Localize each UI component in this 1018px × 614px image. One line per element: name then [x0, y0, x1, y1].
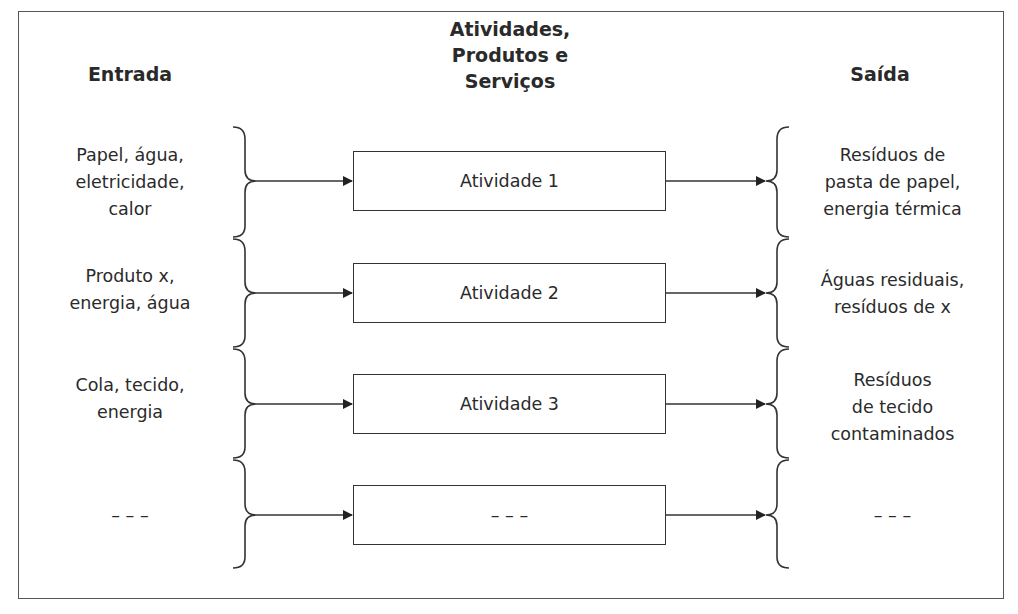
output-text: Águas residuais, resíduos de x: [785, 246, 1000, 342]
activity-label: Atividade 2: [460, 283, 559, 303]
output-text: Resíduos de tecido contaminados: [785, 355, 1000, 459]
output-line: Resíduos de: [840, 142, 946, 169]
output-line: Águas residuais,: [821, 267, 965, 294]
output-line: de tecido: [852, 394, 933, 421]
arrow-icon: [256, 181, 352, 515]
left-brace-icon: [233, 127, 256, 568]
header-output: Saída: [800, 61, 960, 87]
input-line: – – –: [111, 502, 148, 529]
activity-label: – – –: [491, 505, 528, 525]
output-line: resíduos de x: [834, 294, 951, 321]
output-line: – – –: [874, 502, 911, 529]
output-line: contaminados: [831, 421, 955, 448]
output-text: – – –: [785, 495, 1000, 535]
output-line: pasta de papel,: [825, 169, 961, 196]
output-line: energia térmica: [823, 196, 962, 223]
input-line: energia, água: [70, 290, 191, 317]
activity-label: Atividade 3: [460, 394, 559, 414]
input-text: Papel, água, eletricidade, calor: [30, 130, 230, 234]
input-line: eletricidade,: [75, 169, 184, 196]
input-text: Cola, tecido, energia: [30, 351, 230, 447]
input-line: Cola, tecido,: [75, 372, 184, 399]
activity-box: Atividade 2: [353, 263, 666, 323]
input-line: Papel, água,: [76, 142, 184, 169]
header-activities-line: Serviços: [400, 68, 620, 94]
input-line: calor: [108, 196, 151, 223]
header-activities-line: Produtos e: [400, 42, 620, 68]
activity-box: – – –: [353, 485, 666, 545]
activity-box: Atividade 1: [353, 151, 666, 211]
input-line: energia: [97, 399, 163, 426]
arrow-icon: [666, 181, 765, 515]
header-input: Entrada: [50, 61, 210, 87]
header-activities: Atividades, Produtos e Serviços: [400, 16, 620, 94]
output-text: Resíduos de pasta de papel, energia térm…: [785, 130, 1000, 234]
activity-label: Atividade 1: [460, 171, 559, 191]
input-line: Produto x,: [85, 263, 174, 290]
activity-box: Atividade 3: [353, 374, 666, 434]
header-activities-line: Atividades,: [400, 16, 620, 42]
input-text: – – –: [30, 495, 230, 535]
output-line: Resíduos: [853, 367, 931, 394]
input-text: Produto x, energia, água: [30, 242, 230, 338]
